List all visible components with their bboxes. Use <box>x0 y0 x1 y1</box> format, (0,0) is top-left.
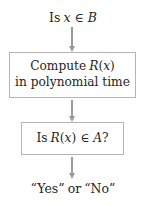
arrow-decide-to-end <box>71 157 73 174</box>
start-set-b: B <box>88 10 97 25</box>
element-of-operator: ∈ <box>73 10 84 25</box>
decision-box-membership: IsR(x)∈A? <box>21 122 124 155</box>
compute-word: Compute <box>30 59 86 73</box>
question-mark: ? <box>102 131 109 145</box>
process-box-compute-text: ComputeR(x) in polynomial time <box>15 59 130 90</box>
paren-close: ) <box>110 59 115 73</box>
process-box-compute: ComputeR(x) in polynomial time <box>9 52 136 98</box>
arrow-start-to-compute <box>71 27 73 47</box>
node-label-start: Isx∈B <box>0 10 146 25</box>
compute-line-2: in polynomial time <box>15 75 130 91</box>
arrow-compute-to-decide <box>71 100 73 117</box>
end-yes-text: “Yes” <box>31 181 65 196</box>
decide-function-r: R <box>51 131 60 145</box>
paren-close: ) <box>71 131 76 145</box>
end-no-text: “No” <box>84 181 115 196</box>
flowchart-diagram: Isx∈B ComputeR(x) in polynomial time IsR… <box>0 0 146 206</box>
decision-box-text: IsR(x)∈A? <box>36 131 108 147</box>
decide-set-a: A <box>93 131 102 145</box>
node-label-end: “Yes”or“No” <box>0 181 146 196</box>
decide-is-text: Is <box>36 131 47 145</box>
compute-argument-x: x <box>103 59 110 73</box>
start-is-text: Is <box>49 10 60 25</box>
end-or-text: or <box>68 181 82 196</box>
start-variable-x: x <box>63 10 70 25</box>
compute-function-r: R <box>89 59 98 73</box>
element-of-operator: ∈ <box>79 131 90 145</box>
compute-line-1: ComputeR(x) <box>15 59 130 75</box>
